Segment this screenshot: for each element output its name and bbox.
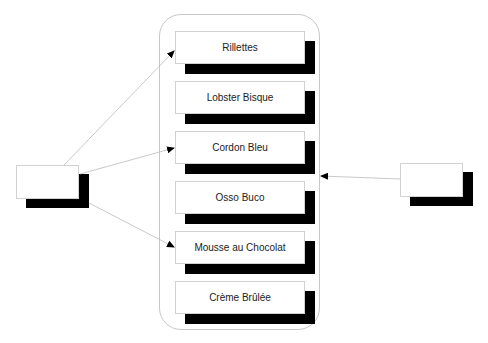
edge-left-to-mousse xyxy=(89,203,174,247)
edges-layer xyxy=(0,0,488,343)
edge-right-to-container xyxy=(321,176,400,179)
edge-left-to-rillettes xyxy=(64,51,174,165)
edge-left-to-cordon-bleu xyxy=(80,148,174,174)
